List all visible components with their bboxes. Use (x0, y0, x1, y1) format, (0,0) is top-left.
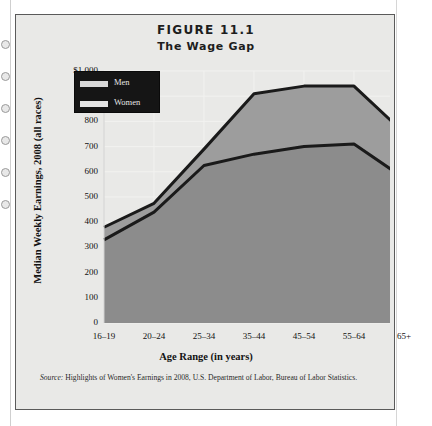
legend-label-men: Men (114, 77, 130, 87)
figure-page: FIGURE 11.1 The Wage Gap Median Weekly E… (0, 0, 432, 426)
x-tick-1: 16–19 (76, 331, 132, 341)
x-axis-title: Age Range (in years) (16, 351, 396, 362)
y-tick-600: 600 (50, 166, 98, 176)
legend-swatch-women (80, 101, 108, 107)
y-tick-500: 500 (50, 191, 98, 201)
y-tick-0: 0 (50, 317, 98, 327)
source-text: Highlights of Women's Earnings in 2008, … (65, 373, 357, 382)
x-tick-6: 55–64 (326, 331, 382, 341)
y-tick-100: 100 (50, 292, 98, 302)
figure-panel: FIGURE 11.1 The Wage Gap Median Weekly E… (15, 14, 395, 410)
x-tick-3: 25–34 (176, 331, 232, 341)
legend-label-women: Women (114, 97, 140, 107)
x-tick-2: 20–24 (126, 331, 182, 341)
page-spine-rule (10, 0, 11, 426)
figure-source-note: Source: Highlights of Women's Earnings i… (40, 373, 376, 383)
y-tick-800: 800 (50, 115, 98, 125)
area-series-women (104, 144, 390, 323)
page-right-rule (396, 0, 397, 426)
chart-legend: Men Women (74, 71, 160, 113)
source-prefix: Source: (40, 373, 63, 382)
legend-item-women: Women (80, 97, 159, 112)
x-tick-5: 45–54 (276, 331, 332, 341)
legend-swatch-men (80, 81, 108, 87)
y-tick-200: 200 (50, 267, 98, 277)
y-tick-300: 300 (50, 241, 98, 251)
y-tick-400: 400 (50, 216, 98, 226)
x-tick-4: 35–44 (226, 331, 282, 341)
legend-item-men: Men (80, 77, 159, 92)
x-tick-7: 65+ (376, 331, 432, 341)
y-tick-700: 700 (50, 141, 98, 151)
